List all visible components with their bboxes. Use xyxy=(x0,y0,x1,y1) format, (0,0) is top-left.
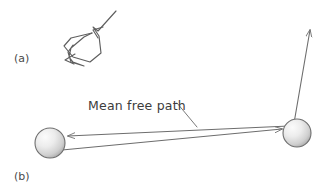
left-molecule-sphere xyxy=(35,128,65,158)
panel-a-group: (a) xyxy=(14,11,116,66)
mean-free-path-arrow-right xyxy=(62,129,282,150)
panel-b-group: Mean free path (b) xyxy=(14,30,311,183)
mean-free-path-label: Mean free path xyxy=(88,98,186,113)
post-collision-trajectory-arrow xyxy=(293,30,310,129)
panel-b-label: (b) xyxy=(14,170,30,183)
figure-canvas: (a) Mean free path (b) xyxy=(0,0,325,192)
panel-a-label: (a) xyxy=(14,52,29,65)
right-molecule-sphere xyxy=(283,119,311,147)
random-walk-path xyxy=(64,11,116,62)
mean-free-path-figure: (a) Mean free path (b) xyxy=(0,0,325,192)
